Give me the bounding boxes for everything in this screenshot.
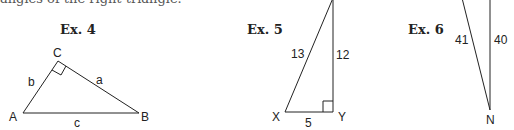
ex5-vertical-label: 12 bbox=[336, 48, 350, 62]
ex5-base-label: 5 bbox=[305, 116, 312, 130]
ex4-side-c: c bbox=[74, 116, 80, 130]
ex4-side-b: b bbox=[28, 75, 35, 89]
ex5-vertex-y: Y bbox=[338, 110, 346, 124]
ex4-side-a: a bbox=[96, 73, 103, 87]
ex4-vertex-b: B bbox=[141, 110, 149, 124]
ex6-vertical-label: 40 bbox=[494, 33, 508, 47]
ex4-vertex-a: A bbox=[9, 110, 17, 124]
ex6-triangle bbox=[462, 0, 490, 110]
ex6-hypotenuse-label: 41 bbox=[455, 33, 469, 47]
ex4-triangle bbox=[23, 61, 139, 113]
ex5-hypotenuse-label: 13 bbox=[291, 47, 305, 61]
ex6-vertex-n: N bbox=[486, 113, 495, 127]
ex5-vertex-x: X bbox=[272, 110, 280, 124]
triangle-diagrams: C a b c A B 13 12 X Y 5 41 40 N bbox=[0, 0, 514, 130]
ex4-vertex-c: C bbox=[53, 46, 62, 60]
